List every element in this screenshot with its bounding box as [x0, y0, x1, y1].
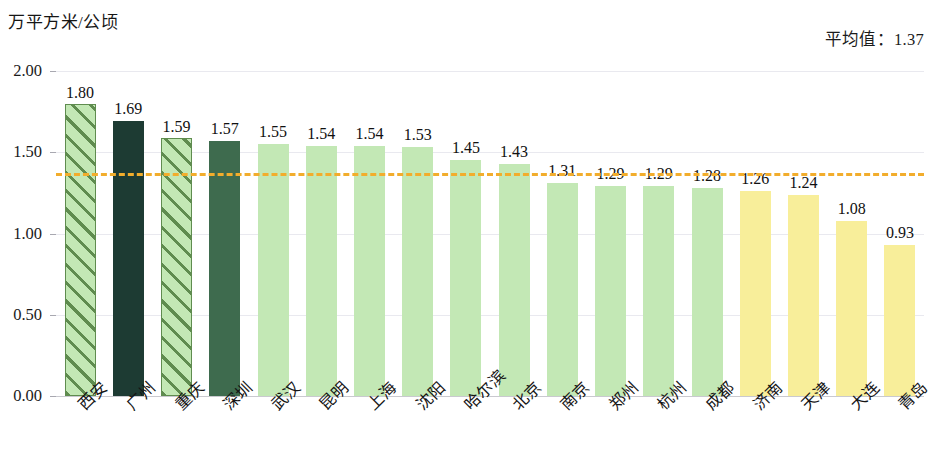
y-axis-tick-label: 0.00 — [0, 386, 42, 406]
average-value-annotation: 平均值：1.37 — [825, 26, 924, 50]
bar: 1.53 — [402, 147, 433, 396]
bar-value-label: 1.80 — [66, 84, 94, 102]
bar-value-label: 1.45 — [452, 139, 480, 157]
bar: 1.54 — [306, 146, 337, 396]
bar-value-label: 1.55 — [259, 123, 287, 141]
bar-chart: 万平方米/公顷 平均值：1.37 0.000.501.001.502.001.8… — [0, 0, 938, 465]
average-line — [56, 173, 924, 176]
bar-value-label: 0.93 — [886, 224, 914, 242]
bar-value-label: 1.54 — [355, 125, 383, 143]
bar-value-label: 1.43 — [500, 143, 528, 161]
x-axis-labels: 西安广州重庆深圳武汉昆明上海沈阳哈尔滨北京南京郑州杭州成都济南天津大连青岛 — [56, 398, 924, 465]
y-axis-tick-mark — [50, 152, 56, 153]
bar: 0.93 — [884, 245, 915, 396]
bar: 1.59 — [161, 138, 192, 396]
bar-value-label: 1.31 — [548, 162, 576, 180]
bar: 1.43 — [499, 164, 530, 396]
bar: 1.45 — [450, 160, 481, 396]
bar: 1.55 — [258, 144, 289, 396]
bar-value-label: 1.59 — [163, 118, 191, 136]
bar: 1.29 — [643, 186, 674, 396]
y-axis-tick-label: 0.50 — [0, 305, 42, 325]
axis-unit-title: 万平方米/公顷 — [8, 8, 118, 33]
gridline — [56, 71, 924, 72]
y-axis-tick-label: 2.00 — [0, 61, 42, 81]
bar: 1.29 — [595, 186, 626, 396]
bar: 1.57 — [209, 141, 240, 396]
bar-value-label: 1.57 — [211, 120, 239, 138]
bar: 1.80 — [65, 104, 96, 397]
y-axis-tick-mark — [50, 396, 56, 397]
bar: 1.69 — [113, 121, 144, 396]
bar: 1.28 — [692, 188, 723, 396]
plot-area: 0.000.501.001.502.001.801.691.591.571.55… — [56, 71, 924, 396]
bar: 1.31 — [547, 183, 578, 396]
bar-value-label: 1.53 — [404, 126, 432, 144]
bar: 1.24 — [788, 195, 819, 397]
y-axis-tick-mark — [50, 315, 56, 316]
y-axis-tick-label: 1.50 — [0, 142, 42, 162]
bar: 1.54 — [354, 146, 385, 396]
y-axis-tick-mark — [50, 234, 56, 235]
bar: 1.26 — [740, 191, 771, 396]
bar-value-label: 1.69 — [114, 100, 142, 118]
y-axis-tick-mark — [50, 71, 56, 72]
bar: 1.08 — [836, 221, 867, 397]
y-axis-tick-label: 1.00 — [0, 224, 42, 244]
bar-value-label: 1.08 — [838, 200, 866, 218]
bar-value-label: 1.54 — [307, 125, 335, 143]
